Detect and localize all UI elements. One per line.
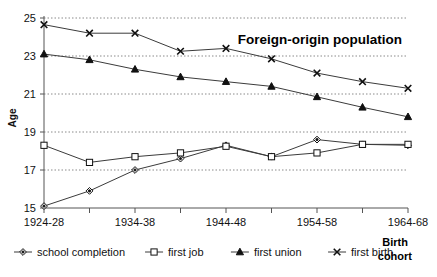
data-series-layer <box>40 21 411 209</box>
legend-label: school completion <box>37 246 125 258</box>
y-tick-label-23: 23 <box>24 50 36 62</box>
x-tick-label-1954-58: 1954-58 <box>297 216 337 228</box>
y-tick-label-19: 19 <box>24 126 36 138</box>
y-tick-label-15: 15 <box>24 202 36 214</box>
chart-container: 151719212325 1924-281934-381944-481954-5… <box>0 0 437 277</box>
legend-label: first job <box>168 246 203 258</box>
data-point-first-job-0 <box>41 142 47 148</box>
x-tick-label-1964-68: 1964-68 <box>388 216 428 228</box>
data-point-first-job-5 <box>268 154 274 160</box>
y-axis-title: Age <box>7 108 18 127</box>
data-point-first-job-8 <box>405 141 411 147</box>
series-line-2 <box>44 54 408 117</box>
line-chart: 151719212325 1924-281934-381944-481954-5… <box>0 0 437 277</box>
y-axis-tick-labels: 151719212325 <box>24 12 36 214</box>
data-point-first-job-3 <box>177 150 183 156</box>
series-first-job <box>41 141 411 165</box>
data-point-first-job-7 <box>359 141 365 147</box>
legend-marker-square-open-icon <box>151 249 157 255</box>
data-point-first-union-0 <box>40 50 47 57</box>
data-point-first-job-6 <box>314 150 320 156</box>
chart-legend: school completionfirst jobfirst unionfir… <box>14 246 393 258</box>
data-point-first-job-1 <box>86 159 92 165</box>
x-axis-tick-labels: 1924-281934-381944-481954-581964-68 <box>24 216 428 228</box>
data-point-first-job-4 <box>223 143 229 149</box>
legend-item-school-completion[interactable]: school completion <box>14 246 125 258</box>
legend-item-first-birth[interactable]: first birth <box>328 246 393 258</box>
x-tick-label-1934-38: 1934-38 <box>115 216 155 228</box>
data-point-first-job-2 <box>132 154 138 160</box>
series-first-union <box>40 50 411 119</box>
legend-label: first union <box>254 246 302 258</box>
y-tick-label-21: 21 <box>24 88 36 100</box>
data-point-first-birth-5 <box>268 56 275 63</box>
legend-label: first birth <box>351 246 393 258</box>
chart-title: Foreign-origin population <box>238 32 402 47</box>
x-tick-label-1944-48: 1944-48 <box>206 216 246 228</box>
y-tick-label-25: 25 <box>24 12 36 24</box>
y-tick-label-17: 17 <box>24 164 36 176</box>
x-tick-label-1924-28: 1924-28 <box>24 216 64 228</box>
legend-item-first-union[interactable]: first union <box>231 246 302 258</box>
legend-item-first-job[interactable]: first job <box>145 246 203 258</box>
